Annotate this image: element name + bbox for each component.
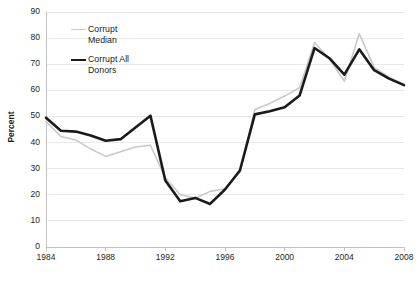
legend-item-corrupt-all-donors: Corrupt All Donors — [88, 54, 129, 77]
legend-swatch-corrupt-all-donors — [71, 59, 86, 61]
axis-lines — [46, 12, 404, 251]
legend-label-corrupt-median-line2: Median — [88, 35, 117, 46]
legend-label-corrupt-all-donors-line2: Donors — [88, 65, 129, 76]
legend-label-corrupt-median-line1: Corrupt — [88, 24, 117, 35]
legend-label-corrupt-all-donors-line1: Corrupt All — [88, 54, 129, 65]
legend-swatch-corrupt-median — [71, 29, 86, 30]
legend-item-corrupt-median: Corrupt Median — [88, 24, 117, 47]
